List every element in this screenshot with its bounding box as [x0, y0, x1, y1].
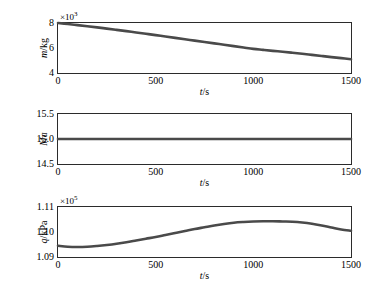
- ytick-mass-2: 8: [49, 18, 54, 28]
- panel-dynamic-pressure: ×105 1.09 1.10 1.11 0 500 1000 1500 q/kP…: [0, 188, 377, 294]
- xtick-mass-3: 1500: [341, 76, 361, 86]
- xtick-mach-3: 1500: [341, 167, 361, 177]
- plot-area-mass: ×103 4 6 8 0 500 1000 1500 m/kg t/s: [57, 22, 352, 74]
- xtick-q-1: 500: [148, 260, 163, 270]
- xtick-mass-1: 500: [148, 76, 163, 86]
- panel-mach: 14.5 15.0 15.5 0 500 1000 1500 Ma t/s: [0, 98, 377, 188]
- xtick-mass-2: 1000: [243, 76, 263, 86]
- ylabel-mach: Ma: [39, 109, 49, 169]
- xtick-q-3: 1500: [341, 260, 361, 270]
- panel-mass: ×103 4 6 8 0 500 1000 1500 m/kg t/s: [0, 0, 377, 98]
- ytick-mass-1: 6: [49, 43, 54, 53]
- curve-dynamic-pressure: [58, 221, 351, 247]
- figure-three-panel-trajectory: ×103 4 6 8 0 500 1000 1500 m/kg t/s 14.5…: [0, 0, 377, 294]
- plot-area-dynamic-pressure: ×105 1.09 1.10 1.11 0 500 1000 1500 q/kP…: [57, 206, 352, 258]
- xtick-mach-0: 0: [56, 167, 61, 177]
- ylabel-mass: m/kg: [39, 18, 49, 78]
- exponent-label-mass: ×103: [60, 13, 78, 22]
- curve-svg-mach: [58, 114, 351, 164]
- ylabel-dynamic-pressure: q/kPa: [39, 202, 49, 262]
- curve-svg-dynamic-pressure: [58, 207, 351, 257]
- exponent-label-dynamic-pressure: ×105: [60, 197, 78, 206]
- xtick-mass-0: 0: [56, 76, 61, 86]
- ytick-mass-0: 4: [49, 68, 54, 78]
- curve-mass: [58, 23, 351, 59]
- xtick-mach-2: 1000: [243, 167, 263, 177]
- xlabel-mach: t/s: [200, 178, 209, 188]
- curve-svg-mass: [58, 23, 351, 73]
- xlabel-dynamic-pressure: t/s: [200, 271, 209, 281]
- plot-area-mach: 14.5 15.0 15.5 0 500 1000 1500 Ma t/s: [57, 113, 352, 165]
- xlabel-mass: t/s: [200, 87, 209, 97]
- xtick-q-2: 1000: [243, 260, 263, 270]
- xtick-q-0: 0: [56, 260, 61, 270]
- xtick-mach-1: 500: [148, 167, 163, 177]
